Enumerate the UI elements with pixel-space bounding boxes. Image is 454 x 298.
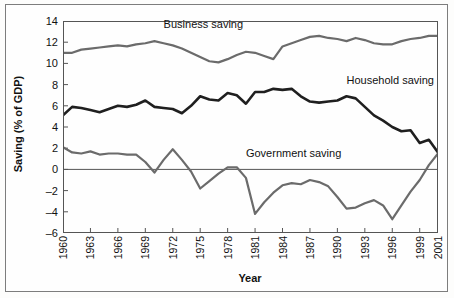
x-tick-label: 1984 xyxy=(277,236,289,259)
plot-frame xyxy=(63,21,438,233)
y-tick-label: 6 xyxy=(52,100,58,112)
y-tick-label: 8 xyxy=(52,79,58,91)
y-tick-label: 12 xyxy=(46,36,58,48)
x-tick-label: 1978 xyxy=(222,236,234,259)
x-tick-label: 1972 xyxy=(167,236,179,259)
y-tick-label: –4 xyxy=(46,206,58,218)
x-tick-label: 1966 xyxy=(112,236,124,259)
x-tick-label: 1996 xyxy=(386,236,398,259)
x-tick-label: 1981 xyxy=(249,236,261,259)
x-tick-label: 1993 xyxy=(359,236,371,259)
x-tick-label: 1999 xyxy=(414,236,426,259)
y-tick-label: 2 xyxy=(52,142,58,154)
series-annotation: Government saving xyxy=(246,147,341,159)
x-tick-label: 2001 xyxy=(432,236,444,259)
y-tick-labels: 14121086420–2–4–6 xyxy=(0,21,58,233)
y-tick-label: 0 xyxy=(52,163,58,175)
y-tick-label: 10 xyxy=(46,57,58,69)
x-axis-label: Year xyxy=(60,272,440,284)
chart-figure: Saving (% of GDP) Year 14121086420–2–4–6… xyxy=(0,0,454,298)
plot-area: Business savingHousehold savingGovernmen… xyxy=(63,21,438,233)
x-tick-labels: 1960196319661969197219751978198119841987… xyxy=(63,236,438,272)
y-tick-label: 4 xyxy=(52,121,58,133)
series-annotation: Household saving xyxy=(347,74,434,86)
x-tick-label: 1963 xyxy=(84,236,96,259)
x-tick-label: 1987 xyxy=(304,236,316,259)
x-tick-label: 1960 xyxy=(57,236,69,259)
y-tick-label: –2 xyxy=(46,185,58,197)
x-tick-label: 1990 xyxy=(331,236,343,259)
series-annotation: Business saving xyxy=(164,18,244,30)
x-tick-label: 1969 xyxy=(139,236,151,259)
y-tick-label: 14 xyxy=(46,15,58,27)
x-tick-label: 1975 xyxy=(194,236,206,259)
